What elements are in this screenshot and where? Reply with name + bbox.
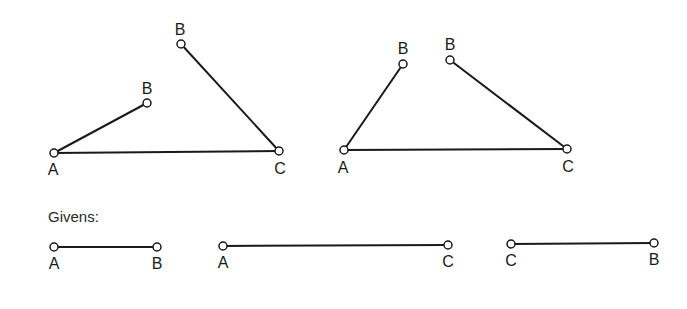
point-label-C: C [562,158,574,175]
point-A-marker [50,149,58,157]
point-label-C: C [505,252,517,269]
point-B-marker [143,99,151,107]
point-label-B: B [152,255,163,272]
point-label-A: A [49,255,60,272]
point-label-A: A [48,161,59,178]
point-C-marker [507,240,515,248]
segment-AC [54,151,279,153]
point-label-A: A [338,159,349,176]
point-label-B: B [398,40,409,57]
point-label-B: B [142,80,153,97]
point-B-marker [446,56,454,64]
point-label-A: A [218,254,229,271]
segment-AB: AB [49,243,163,272]
triangle-figures: ABBCABBC [48,21,574,178]
point-label-B: B [445,36,456,53]
segment-line [511,243,654,244]
segment-AB [54,103,147,153]
givens-segments: ABACCB [49,239,660,272]
point-C-marker [563,145,571,153]
point-B-marker [153,243,161,251]
point-A-marker [219,242,227,250]
point-C-marker [444,241,452,249]
point-label-C: C [274,160,286,177]
givens-title: Givens: [48,208,99,225]
point-B-marker [177,40,185,48]
point-B-marker [399,60,407,68]
segment-CB: CB [505,239,659,269]
diagram-canvas: ABBCABBC Givens: ABACCB [0,0,687,309]
point-label-B: B [649,251,660,268]
segment-BC [450,60,567,149]
triangle-left: ABBC [48,21,286,178]
point-label-C: C [442,253,454,270]
point-C-marker [275,147,283,155]
triangle-right: ABBC [338,36,574,176]
point-label-B: B [175,21,186,38]
segment-AB [344,64,403,150]
segment-AC [344,149,567,150]
point-A-marker [50,243,58,251]
point-B-marker [650,239,658,247]
segment-BC [181,44,279,151]
segment-AC: AC [218,241,454,271]
point-A-marker [340,146,348,154]
segment-line [223,245,448,246]
